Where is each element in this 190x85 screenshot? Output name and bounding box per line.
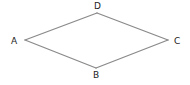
vertex-label-c: C bbox=[174, 36, 180, 46]
edge-c-b bbox=[96, 40, 168, 68]
edge-a-d bbox=[25, 13, 97, 40]
vertex-label-a: A bbox=[11, 36, 18, 46]
vertex-label-d: D bbox=[94, 1, 101, 11]
vertex-label-b: B bbox=[93, 70, 99, 80]
edge-d-c bbox=[97, 13, 168, 40]
rhombus-diagram: A D C B bbox=[0, 0, 190, 85]
edge-b-a bbox=[25, 40, 96, 68]
